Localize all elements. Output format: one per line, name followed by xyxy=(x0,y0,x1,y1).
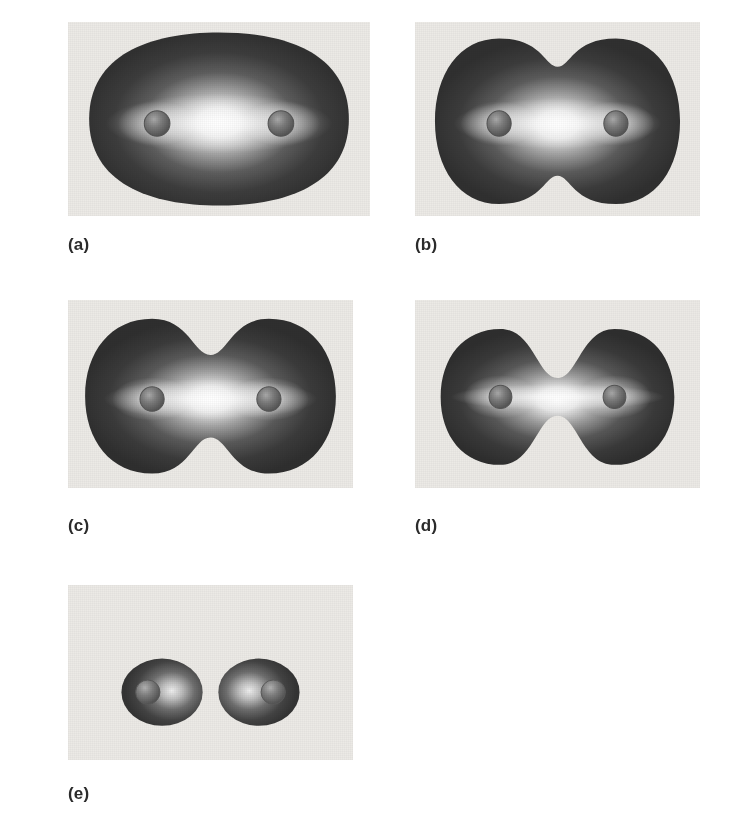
panel-b-caption: (b) xyxy=(415,236,437,253)
panel-c xyxy=(68,300,353,488)
panel-d xyxy=(415,300,700,488)
panel-a xyxy=(68,22,370,216)
panel-b xyxy=(415,22,700,216)
panel-e-caption: (e) xyxy=(68,785,89,802)
panel-c-isosurface xyxy=(68,300,353,488)
isosurface-figure: (a) xyxy=(0,0,743,820)
panel-c-caption: (c) xyxy=(68,517,89,534)
panel-d-isosurface xyxy=(415,300,700,488)
panel-a-caption: (a) xyxy=(68,236,89,253)
panel-b-isosurface xyxy=(415,22,700,216)
panel-a-isosurface xyxy=(68,22,370,216)
panel-d-caption: (d) xyxy=(415,517,437,534)
panel-e xyxy=(68,585,353,760)
panel-e-isosurface xyxy=(68,585,353,760)
